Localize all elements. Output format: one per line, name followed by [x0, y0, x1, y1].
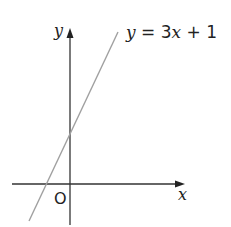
equation-equals: = 3: [136, 22, 172, 42]
line-y-equals-3x-plus-1: [29, 32, 118, 221]
equation-rest: + 1: [181, 22, 217, 42]
graph-canvas: y x O y = 3x + 1: [0, 0, 231, 227]
x-axis-label: x: [178, 185, 187, 204]
y-axis-arrow-icon: [67, 28, 74, 38]
equation-label: y = 3x + 1: [125, 22, 217, 42]
y-axis-label: y: [53, 21, 64, 40]
equation-lhs: y: [125, 22, 136, 42]
origin-label: O: [54, 189, 67, 208]
equation-var: x: [171, 22, 181, 42]
